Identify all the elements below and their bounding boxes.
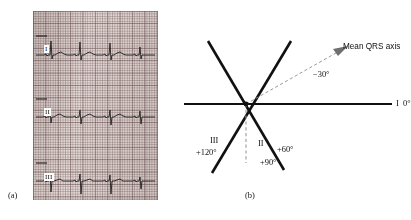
lead-I-label: I <box>396 99 399 108</box>
panel-caption-a: (a) <box>8 190 17 200</box>
lead-III-label: III <box>210 136 218 145</box>
hexaxial-axis-svg <box>180 0 410 220</box>
angle-label-plus-60: +60° <box>277 145 293 154</box>
ecg-paper-shading <box>33 11 158 200</box>
angle-label-minus-30: −30° <box>313 70 329 79</box>
panel-caption-b: (b) <box>245 190 255 200</box>
angle-label-0: 0° <box>403 99 411 108</box>
lead-label-III: III <box>44 173 54 181</box>
axis-origin-point <box>244 102 249 107</box>
lead-II-label: II <box>258 139 264 148</box>
lead-label-I: I <box>44 45 49 53</box>
mean-qrs-axis-label: Mean QRS axis <box>343 42 400 51</box>
lead-I-angle-label: I 0° <box>396 99 411 108</box>
angle-label-plus-120: +120° <box>196 148 217 157</box>
panel-a-ecg-strip: I II III (a) <box>0 0 180 220</box>
ecg-paper <box>33 11 158 200</box>
panel-b-hexaxial-diagram: Mean QRS axis −30° I 0° III +120° II +60… <box>180 0 410 220</box>
angle-label-plus-90: +90° <box>260 158 276 167</box>
lead-label-II: II <box>44 108 51 116</box>
